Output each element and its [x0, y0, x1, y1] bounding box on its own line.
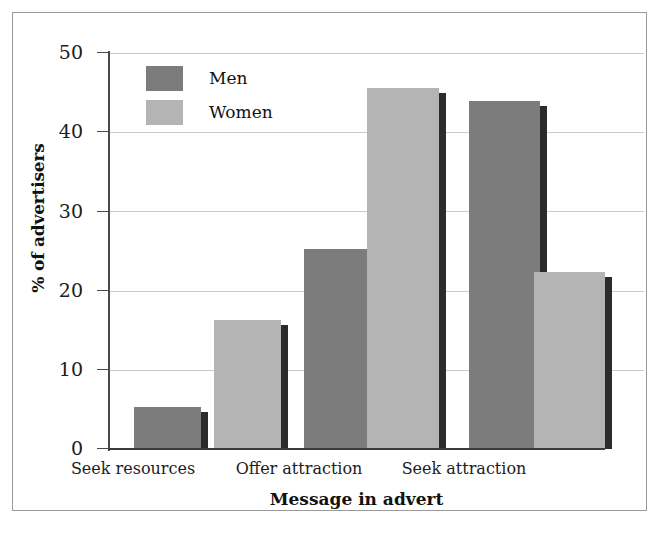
bar-men-seek-resources	[134, 407, 208, 449]
legend-label-women: Women	[209, 102, 273, 122]
bar-shadow	[201, 412, 208, 449]
y-tick-mark-20	[97, 290, 109, 291]
y-axis-line	[108, 51, 110, 451]
y-tick-label-10: 10	[43, 358, 83, 380]
x-tick-label-offer-attraction: Offer attraction	[209, 459, 389, 478]
bar-women-offer-attraction	[367, 88, 446, 449]
x-axis-title: Message in advert	[108, 489, 605, 509]
bar-face	[134, 407, 201, 449]
legend-swatch-women-icon	[146, 100, 183, 125]
y-tick-label-40: 40	[43, 120, 83, 142]
legend-swatch-men-icon	[146, 66, 183, 91]
legend-item-men: Men	[146, 61, 273, 95]
bar-face	[367, 88, 439, 449]
y-tick-mark-30	[97, 211, 109, 212]
chart-frame: 50 40 30 20 10 0 % of advertisers Seek r…	[12, 12, 647, 511]
bar-face	[304, 249, 371, 449]
bar-shadow	[281, 325, 288, 449]
legend-item-women: Women	[146, 95, 273, 129]
y-tick-mark-0	[97, 448, 109, 449]
y-axis-title: % of advertisers	[28, 88, 48, 348]
x-tick-label-seek-resources: Seek resources	[43, 459, 223, 478]
legend: Men Women	[146, 61, 273, 129]
x-tick-label-seek-attraction: Seek attraction	[374, 459, 554, 478]
y-tick-mark-50	[97, 52, 109, 53]
bar-shadow	[605, 277, 612, 449]
y-tick-label-50: 50	[43, 41, 83, 63]
y-tick-label-0: 0	[43, 437, 83, 459]
y-tick-mark-10	[97, 369, 109, 370]
y-tick-mark-40	[97, 131, 109, 132]
y-tick-label-30: 30	[43, 200, 83, 222]
y-tick-label-20: 20	[43, 279, 83, 301]
bar-shadow	[439, 93, 446, 449]
bar-women-seek-resources	[214, 320, 288, 449]
bar-face	[469, 101, 540, 449]
legend-label-men: Men	[209, 68, 247, 88]
gridline-50	[109, 53, 644, 54]
bar-face	[214, 320, 281, 449]
x-axis-line	[108, 448, 605, 450]
bar-face	[534, 272, 605, 449]
bar-women-seek-attraction	[534, 272, 612, 449]
